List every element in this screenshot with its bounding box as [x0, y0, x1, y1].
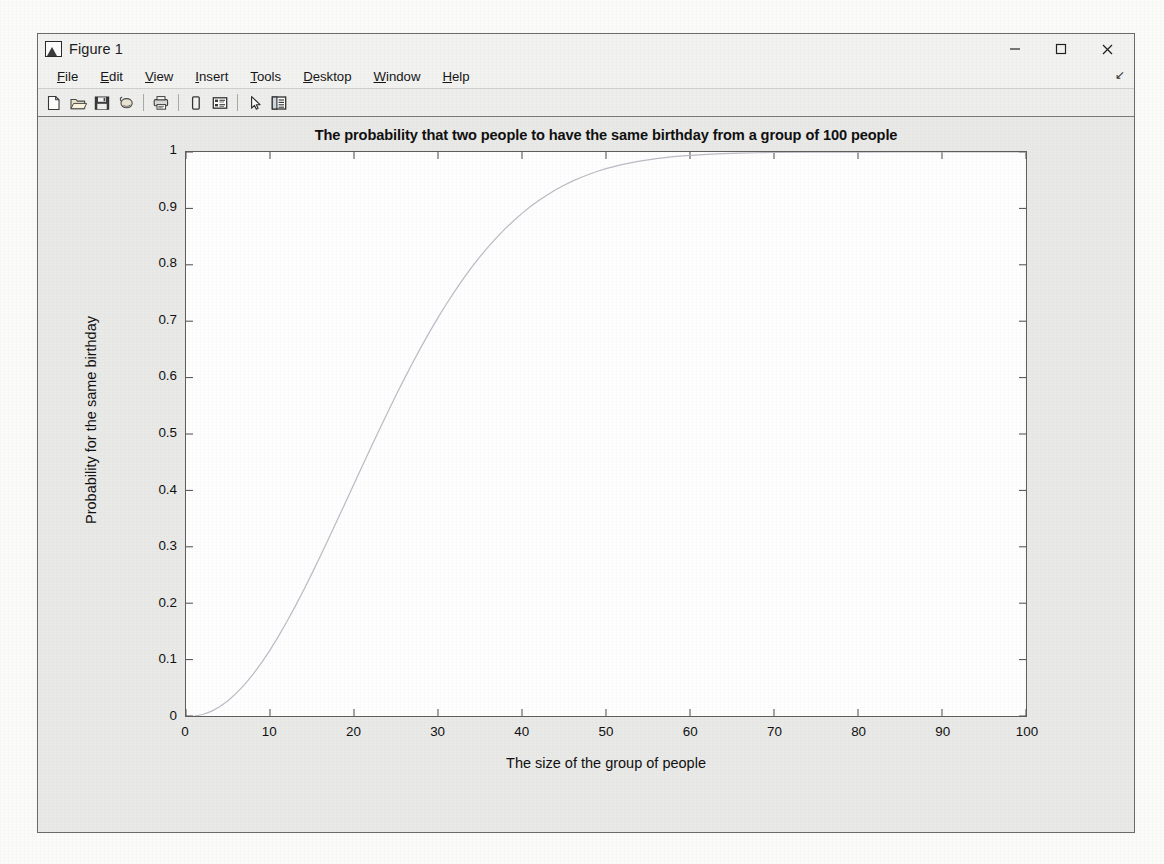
- menu-mnemonic: F: [57, 69, 65, 84]
- menu-item-desktop[interactable]: Desktop: [292, 69, 362, 84]
- close-icon[interactable]: [1084, 34, 1130, 64]
- menu-bar[interactable]: File Edit View Insert Tools Desktop Wind…: [38, 64, 1134, 89]
- maximize-icon[interactable]: [1038, 34, 1084, 64]
- menu-label-rest: ile: [65, 69, 78, 84]
- print-preview-icon[interactable]: [150, 92, 172, 114]
- x-tick-label: 50: [586, 724, 626, 739]
- window-controls: [992, 34, 1130, 64]
- y-tick-label: 0.9: [141, 199, 177, 214]
- minimize-icon[interactable]: [992, 34, 1038, 64]
- menu-label-rest: iew: [154, 69, 174, 84]
- insert-colorbar-icon[interactable]: [185, 92, 207, 114]
- y-tick-label: 0.4: [141, 482, 177, 497]
- x-tick-label: 30: [418, 724, 458, 739]
- y-tick-label: 1: [141, 142, 177, 157]
- chart-title: The probability that two people to have …: [185, 127, 1027, 143]
- y-tick-label: 0.6: [141, 368, 177, 383]
- y-tick-label: 0.8: [141, 255, 177, 270]
- menu-overflow-arrow-icon[interactable]: ↘: [1115, 68, 1125, 82]
- plot-series-svg: [186, 152, 1026, 716]
- menu-label-rest: nsert: [199, 69, 228, 84]
- x-tick-label: 100: [1007, 724, 1047, 739]
- plot-axes[interactable]: [185, 151, 1027, 717]
- x-tick-label: 60: [670, 724, 710, 739]
- menu-item-file[interactable]: File: [46, 69, 89, 84]
- y-tick-label: 0.3: [141, 538, 177, 553]
- toolbar-separator: [178, 94, 179, 111]
- save-figure-icon[interactable]: [91, 92, 113, 114]
- insert-legend-icon[interactable]: [209, 92, 231, 114]
- x-tick-label: 70: [754, 724, 794, 739]
- x-tick-label: 20: [333, 724, 373, 739]
- y-tick-label: 0.1: [141, 651, 177, 666]
- y-tick-label: 0.5: [141, 425, 177, 440]
- edit-plot-arrow-icon[interactable]: [244, 92, 266, 114]
- x-tick-label: 10: [249, 724, 289, 739]
- menu-item-help[interactable]: Help: [431, 69, 480, 84]
- toolbar[interactable]: [38, 89, 1134, 117]
- x-tick-label: 90: [923, 724, 963, 739]
- menu-mnemonic: D: [303, 69, 313, 84]
- menu-item-view[interactable]: View: [134, 69, 184, 84]
- menu-mnemonic: W: [374, 69, 386, 84]
- x-axis-label: The size of the group of people: [185, 755, 1027, 771]
- toolbar-separator: [237, 94, 238, 111]
- window-title: Figure 1: [69, 41, 123, 57]
- y-tick-label: 0: [141, 708, 177, 723]
- print-figure-icon[interactable]: [115, 92, 137, 114]
- menu-mnemonic: T: [250, 69, 257, 84]
- x-tick-label: 80: [839, 724, 879, 739]
- matlab-figure-icon: [45, 41, 62, 57]
- x-tick-label: 0: [165, 724, 205, 739]
- menu-label-rest: ools: [257, 69, 281, 84]
- menu-mnemonic: V: [145, 69, 154, 84]
- menu-item-insert[interactable]: Insert: [184, 69, 239, 84]
- figure-window[interactable]: Figure 1 File Edit View Insert Tools Des…: [37, 33, 1135, 833]
- menu-label-rest: elp: [452, 69, 470, 84]
- x-tick-label: 40: [502, 724, 542, 739]
- menu-mnemonic: E: [100, 69, 109, 84]
- title-bar[interactable]: Figure 1: [38, 34, 1134, 64]
- y-tick-label: 0.2: [141, 595, 177, 610]
- data-line-series: [194, 152, 1026, 716]
- menu-item-tools[interactable]: Tools: [239, 69, 292, 84]
- y-tick-label: 0.7: [141, 312, 177, 327]
- open-file-icon[interactable]: [67, 92, 89, 114]
- axis-ticks: [186, 152, 1026, 716]
- menu-mnemonic: H: [442, 69, 452, 84]
- figure-canvas[interactable]: The probability that two people to have …: [38, 117, 1134, 832]
- new-figure-icon[interactable]: [43, 92, 65, 114]
- menu-label-rest: esktop: [313, 69, 352, 84]
- menu-label-rest: dit: [109, 69, 123, 84]
- toolbar-separator: [143, 94, 144, 111]
- menu-label-rest: indow: [386, 69, 420, 84]
- menu-item-edit[interactable]: Edit: [89, 69, 134, 84]
- y-axis-label: Probability for the same birthday: [83, 260, 99, 580]
- menu-item-window[interactable]: Window: [363, 69, 432, 84]
- show-plot-tools-icon[interactable]: [268, 92, 290, 114]
